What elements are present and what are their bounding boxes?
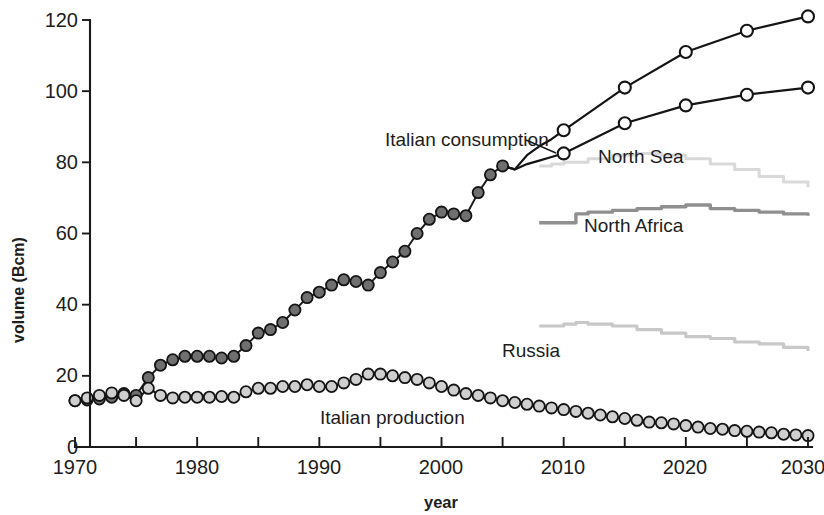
x-tick-label-2020: 2020	[663, 456, 708, 478]
italian-production-point	[460, 388, 471, 399]
italian-consumption-point	[167, 354, 178, 365]
x-tick-label-2000: 2000	[419, 456, 464, 478]
forecast-low-scenario-point	[680, 99, 692, 111]
annotation-italian-production: Italian production	[320, 407, 465, 428]
italian-production-point	[253, 383, 264, 394]
italian-production-point	[631, 415, 642, 426]
italian-consumption-point	[155, 360, 166, 371]
forecast-low-scenario-point	[802, 82, 814, 94]
annotation-north-africa: North Africa	[584, 215, 684, 236]
italian-production-point	[106, 387, 117, 398]
italian-consumption-point	[240, 340, 251, 351]
x-tick-label-1980: 1980	[175, 456, 220, 478]
gas-volume-line-chart: 120 100 80 60 40 20 0 1970 1980 1990 200…	[0, 0, 824, 515]
forecast-high-scenario-point	[741, 25, 753, 37]
italian-production-point	[143, 383, 154, 394]
italian-consumption-point	[265, 324, 276, 335]
italian-production-point	[717, 424, 728, 435]
italian-consumption-point	[473, 187, 484, 198]
forecast-high-scenario-point	[619, 82, 631, 94]
italian-consumption-point	[436, 207, 447, 218]
italian-production-point	[326, 381, 337, 392]
italian-production-point	[473, 390, 484, 401]
italian-production-point	[778, 429, 789, 440]
italian-production-point	[302, 379, 313, 390]
y-tick-label-80: 80	[56, 151, 78, 173]
italian-consumption-point	[497, 160, 508, 171]
italian-production-point	[729, 425, 740, 436]
annotation-italian-consumption: Italian consumption	[385, 129, 549, 150]
x-tick-label-1970: 1970	[53, 456, 98, 478]
italian-production-point	[314, 381, 325, 392]
italian-production-point	[558, 404, 569, 415]
italian-consumption-point	[326, 280, 337, 291]
y-tick-label-100: 100	[45, 80, 78, 102]
italian-production-point	[338, 377, 349, 388]
italian-consumption-point	[277, 317, 288, 328]
y-tick-label-0: 0	[67, 436, 78, 458]
italian-consumption-point	[375, 267, 386, 278]
forecast-high-scenario-point	[680, 46, 692, 58]
x-tick-label-2010: 2010	[541, 456, 586, 478]
italian-production-point	[363, 369, 374, 380]
italian-production-point	[497, 395, 508, 406]
italian-production-point	[570, 406, 581, 417]
italian-production-point	[644, 417, 655, 428]
italian-consumption-point	[412, 228, 423, 239]
italian-production-point	[375, 369, 386, 380]
italian-production-point	[668, 418, 679, 429]
italian-consumption-point	[289, 304, 300, 315]
italian-production-point	[82, 392, 93, 403]
italian-production-point	[741, 426, 752, 437]
y-tick-label-40: 40	[56, 293, 78, 315]
italian-production-point	[216, 391, 227, 402]
italian-production-point	[131, 395, 142, 406]
forecast-high-scenario-point	[558, 124, 570, 136]
italian-consumption-point	[253, 328, 264, 339]
italian-production-point	[204, 392, 215, 403]
italian-production-point	[509, 397, 520, 408]
x-tick-label-1990: 1990	[297, 456, 342, 478]
forecast-low-scenario-point	[741, 89, 753, 101]
italian-production-point	[607, 411, 618, 422]
italian-production-point	[619, 413, 630, 424]
x-axis-title: year	[424, 493, 459, 511]
y-tick-label-120: 120	[45, 9, 78, 31]
italian-production-point	[754, 427, 765, 438]
chart-figure: 120 100 80 60 40 20 0 1970 1980 1990 200…	[0, 0, 824, 515]
italian-consumption-point	[350, 276, 361, 287]
italian-production-point	[521, 399, 532, 410]
italian-production-point	[534, 401, 545, 412]
italian-production-point	[412, 374, 423, 385]
forecast-low-scenario-point	[558, 147, 570, 159]
italian-production-point	[424, 377, 435, 388]
forecast-high-scenario-point	[802, 10, 814, 22]
italian-production-point	[192, 392, 203, 403]
italian-production-point	[265, 383, 276, 394]
italian-consumption-point	[363, 280, 374, 291]
italian-consumption-point	[302, 292, 313, 303]
italian-production-point	[692, 422, 703, 433]
annotation-russia: Russia	[502, 340, 561, 361]
italian-consumption-point	[192, 351, 203, 362]
italian-consumption-point	[460, 210, 471, 221]
italian-consumption-point	[204, 351, 215, 362]
italian-production-point	[656, 417, 667, 428]
italian-consumption-point	[143, 372, 154, 383]
italian-production-point	[94, 390, 105, 401]
italian-production-point	[228, 392, 239, 403]
italian-production-point	[399, 372, 410, 383]
italian-consumption-point	[387, 256, 398, 267]
chart-background	[0, 0, 824, 515]
italian-production-point	[350, 374, 361, 385]
italian-consumption-point	[179, 351, 190, 362]
italian-production-point	[705, 423, 716, 434]
italian-production-point	[766, 427, 777, 438]
italian-consumption-point	[228, 351, 239, 362]
italian-production-point	[583, 408, 594, 419]
italian-production-point	[69, 395, 80, 406]
italian-production-point	[790, 429, 801, 440]
italian-production-point	[118, 390, 129, 401]
annotation-north-sea: North Sea	[598, 146, 684, 167]
italian-production-point	[436, 381, 447, 392]
